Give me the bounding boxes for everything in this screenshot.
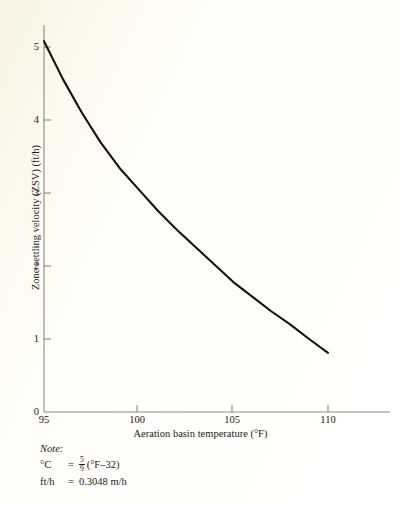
note-celsius-rhs: (°F–32) xyxy=(87,457,120,473)
y-axis-title: Zone settling velocity (ZSV) (ft/h) xyxy=(30,98,41,338)
x-tick-label-100: 100 xyxy=(117,414,157,425)
note-fth-equals: = xyxy=(66,474,79,490)
x-tick-label-105: 105 xyxy=(212,414,252,425)
note-celsius-equation: °C = 5 9 (°F–32) xyxy=(40,457,127,474)
note-fraction-five-ninths: 5 9 xyxy=(79,456,85,473)
x-axis-title: Aeration basin temperature (°F) xyxy=(0,428,401,439)
x-tick-label-95: 95 xyxy=(24,414,64,425)
y-tick-label-5: 5 xyxy=(19,41,39,52)
note-fraction-denominator: 9 xyxy=(79,464,85,473)
note-celsius-symbol: °C xyxy=(40,457,66,473)
note-fth-symbol: ft/h xyxy=(40,474,66,490)
note-fth-equation: ft/h = 0.3048 m/h xyxy=(40,474,127,490)
note-celsius-equals: = xyxy=(66,457,79,473)
note-block: Note: °C = 5 9 (°F–32) ft/h = 0.3048 m/h xyxy=(40,441,127,490)
figure-container: 0 1 2 3 4 5 95 100 105 110 Aeration basi… xyxy=(0,0,401,505)
zsv-curve xyxy=(44,41,328,353)
note-fth-rhs: 0.3048 m/h xyxy=(79,474,127,490)
note-fraction-numerator: 5 xyxy=(79,456,85,464)
x-tick-label-110: 110 xyxy=(308,414,348,425)
